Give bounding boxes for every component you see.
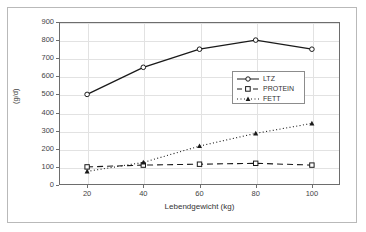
data-point (254, 161, 258, 165)
y-tick-label: 600 (28, 72, 54, 80)
chart-figure: 0100200300400500600700800900 20406080100… (0, 0, 366, 232)
data-point (197, 144, 202, 149)
x-tick-mark (200, 185, 201, 188)
legend-sample-fett (236, 94, 260, 104)
x-tick-mark (312, 185, 313, 188)
x-tick-label: 40 (128, 190, 158, 198)
legend-item-0[interactable]: LTZ (236, 74, 304, 84)
legend-label-ltz: LTZ (263, 74, 275, 84)
legend-sample-ltz (236, 74, 260, 84)
x-tick-label: 80 (241, 190, 271, 198)
x-tick-label: 100 (297, 190, 327, 198)
legend-sample-protein (236, 84, 260, 94)
legend-item-1[interactable]: PROTEIN (236, 84, 304, 94)
data-point (197, 47, 202, 52)
y-tick-label: 100 (28, 163, 54, 171)
data-point (85, 92, 90, 97)
x-tick-label: 20 (72, 190, 102, 198)
data-point (141, 65, 146, 70)
legend-item-2[interactable]: FETT (236, 94, 304, 104)
y-tick-label: 800 (28, 36, 54, 44)
y-tick-label: 200 (28, 145, 54, 153)
x-tick-mark (87, 185, 88, 188)
x-tick-mark (143, 185, 144, 188)
data-point (85, 165, 89, 169)
x-axis-label: Lebendgewicht (kg) (59, 202, 340, 211)
y-tick-label: 700 (28, 54, 54, 62)
data-point (253, 38, 258, 43)
data-point (309, 121, 314, 126)
chart-legend: LTZ PROTEIN FETT (232, 71, 305, 104)
y-tick-mark (56, 185, 59, 186)
y-tick-label: 0 (28, 181, 54, 189)
x-tick-label: 60 (185, 190, 215, 198)
y-tick-label: 500 (28, 90, 54, 98)
legend-label-protein: PROTEIN (263, 84, 294, 94)
y-axis-label: (g/d) (11, 89, 20, 104)
data-point (310, 163, 314, 167)
y-tick-label: 400 (28, 109, 54, 117)
data-point (253, 131, 258, 136)
data-point (197, 162, 201, 166)
y-tick-label: 900 (28, 18, 54, 26)
series-protein (85, 161, 314, 169)
x-tick-mark (256, 185, 257, 188)
legend-label-fett: FETT (263, 94, 281, 104)
y-tick-label: 300 (28, 127, 54, 135)
data-point (310, 47, 315, 52)
